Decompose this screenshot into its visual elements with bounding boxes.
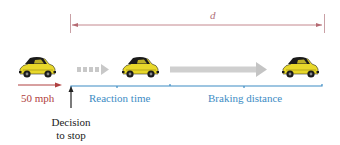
- car-after-reaction-icon: [122, 57, 159, 78]
- speed-label: 50 mph: [21, 92, 54, 104]
- decision-label-line1: Decision: [48, 116, 94, 129]
- arrowhead-left-icon: [72, 23, 78, 27]
- car-stopped-icon: [282, 57, 319, 78]
- decision-arrow-icon: [69, 86, 74, 108]
- reaction-time-label: Reaction time: [89, 92, 150, 104]
- distance-dimension: [71, 14, 325, 33]
- braking-motion-arrow-icon: [170, 62, 267, 77]
- decision-label: Decision to stop: [48, 116, 94, 142]
- distance-label: d: [210, 9, 216, 21]
- decision-label-line2: to stop: [48, 129, 94, 142]
- reaction-motion-arrow-icon: [77, 64, 109, 75]
- distance-bracket: [71, 84, 322, 88]
- car-start-icon: [19, 57, 56, 78]
- arrowhead-right-icon: [316, 23, 322, 27]
- braking-distance-label: Braking distance: [208, 92, 282, 104]
- speed-arrow-icon: [18, 83, 62, 88]
